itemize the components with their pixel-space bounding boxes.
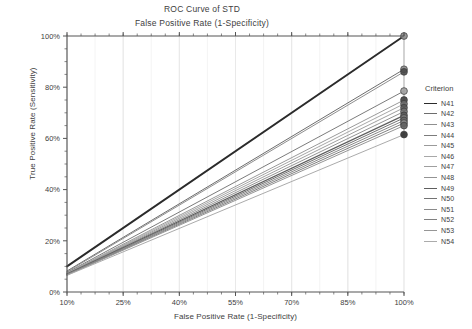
x-tick-label: 70% — [284, 298, 299, 307]
legend-label: N43 — [441, 121, 454, 128]
x-axis-label: False Positive Rate (1-Specificity) — [67, 312, 404, 321]
legend-title: Criterion — [425, 84, 472, 93]
grid-lines — [67, 36, 404, 292]
legend-swatch-icon — [424, 166, 437, 167]
legend-item-n43[interactable]: N43 — [424, 119, 472, 130]
legend-label: N53 — [441, 227, 454, 234]
endpoint-marker-n43 — [401, 68, 408, 75]
y-axis-ticks: 0%20%40%60%80%100% — [41, 32, 67, 297]
x-tick-label: 25% — [116, 298, 131, 307]
x-tick-label: 10% — [59, 298, 74, 307]
legend-swatch-icon — [424, 209, 437, 210]
legend-item-n47[interactable]: N47 — [424, 162, 472, 173]
legend-swatch-icon — [424, 103, 437, 104]
legend-item-n42[interactable]: N42 — [424, 109, 472, 120]
legend-swatch-icon — [424, 188, 437, 189]
legend-label: N54 — [441, 238, 454, 245]
y-axis-label: True Positive Rate (Sensitivity) — [28, 44, 37, 204]
legend-label: N49 — [441, 185, 454, 192]
legend-swatch-icon — [424, 198, 437, 199]
roc-curve-chart: ROC Curve of STD False Positive Rate (1-… — [0, 0, 472, 329]
legend-swatch-icon — [424, 177, 437, 178]
legend-items: N41N42N43N44N45N46N47N48N49N50N51N52N53N… — [424, 98, 472, 246]
legend-swatch-icon — [424, 135, 437, 136]
endpoint-marker-n54 — [401, 131, 408, 138]
legend-label: N47 — [441, 163, 454, 170]
y-tick-label: 0% — [49, 288, 60, 297]
legend-item-n51[interactable]: N51 — [424, 204, 472, 215]
legend-label: N51 — [441, 206, 454, 213]
legend-swatch-icon — [424, 241, 437, 242]
legend-item-n45[interactable]: N45 — [424, 140, 472, 151]
legend-item-n50[interactable]: N50 — [424, 193, 472, 204]
legend-item-n46[interactable]: N46 — [424, 151, 472, 162]
legend-swatch-icon — [424, 124, 437, 125]
x-tick-label: 85% — [340, 298, 355, 307]
legend-item-n52[interactable]: N52 — [424, 215, 472, 226]
legend-swatch-icon — [424, 156, 437, 157]
legend: Criterion N41N42N43N44N45N46N47N48N49N50… — [424, 84, 472, 246]
legend-swatch-icon — [424, 145, 437, 146]
y-tick-label: 80% — [45, 83, 60, 92]
legend-item-n53[interactable]: N53 — [424, 225, 472, 236]
legend-swatch-icon — [424, 113, 437, 114]
x-tick-label: 100% — [394, 298, 414, 307]
legend-item-n41[interactable]: N41 — [424, 98, 472, 109]
endpoint-marker-n53 — [401, 122, 408, 129]
y-tick-label: 100% — [41, 32, 61, 41]
y-tick-label: 20% — [45, 237, 60, 246]
legend-label: N44 — [441, 132, 454, 139]
legend-item-n44[interactable]: N44 — [424, 130, 472, 141]
legend-swatch-icon — [424, 230, 437, 231]
legend-label: N48 — [441, 174, 454, 181]
y-tick-label: 60% — [45, 134, 60, 143]
legend-label: N52 — [441, 216, 454, 223]
legend-item-n49[interactable]: N49 — [424, 183, 472, 194]
x-tick-label: 55% — [228, 298, 243, 307]
legend-label: N50 — [441, 195, 454, 202]
x-tick-label: 40% — [172, 298, 187, 307]
legend-label: N45 — [441, 142, 454, 149]
legend-label: N46 — [441, 153, 454, 160]
y-tick-label: 40% — [45, 185, 60, 194]
legend-swatch-icon — [424, 219, 437, 220]
legend-item-n54[interactable]: N54 — [424, 236, 472, 247]
legend-label: N41 — [441, 100, 454, 107]
legend-label: N42 — [441, 110, 454, 117]
endpoint-marker-n44 — [401, 88, 408, 95]
legend-item-n48[interactable]: N48 — [424, 172, 472, 183]
plot-area: 0%20%40%60%80%100%10%25%40%55%70%85%100% — [0, 0, 472, 329]
